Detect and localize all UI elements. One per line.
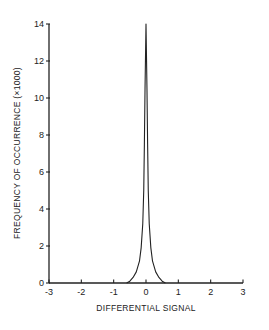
y-tick-label: 4 xyxy=(39,204,44,214)
x-tick-label: -2 xyxy=(77,287,85,297)
y-axis-title: FREQUENCY OF OCCURRENCE (×1000) xyxy=(12,67,22,239)
x-axis-title: DIFFERENTIAL SIGNAL xyxy=(96,303,195,313)
y-tick-label: 6 xyxy=(39,167,44,177)
x-tick-label: 0 xyxy=(143,287,148,297)
y-tick-label: 2 xyxy=(39,241,44,251)
y-tick-label: 10 xyxy=(34,93,44,103)
y-tick-label: 0 xyxy=(39,278,44,288)
x-tick-label: -3 xyxy=(45,287,53,297)
x-tick-label: -1 xyxy=(110,287,118,297)
chart: 02468101214-3-2-10123 DIFFERENTIAL SIGNA… xyxy=(0,0,269,330)
x-tick-label: 2 xyxy=(208,287,213,297)
y-tick-label: 12 xyxy=(34,56,44,66)
x-tick-label: 3 xyxy=(240,287,245,297)
x-tick-label: 1 xyxy=(176,287,181,297)
data-curve xyxy=(127,24,166,283)
distribution-curve xyxy=(127,24,166,283)
y-tick-label: 14 xyxy=(34,19,44,29)
y-tick-label: 8 xyxy=(39,130,44,140)
